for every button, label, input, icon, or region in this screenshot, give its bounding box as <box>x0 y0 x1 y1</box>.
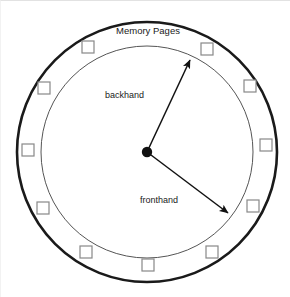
figure-border <box>0 0 290 297</box>
